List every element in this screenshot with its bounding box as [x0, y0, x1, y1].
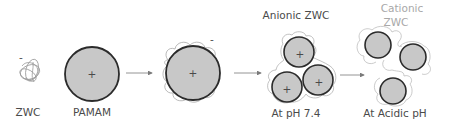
zwc-charge-minus: -: [19, 51, 23, 63]
cationic-label-line1: Cationic: [381, 2, 424, 14]
cationic-label-line2: ZWC: [384, 16, 409, 28]
anionic-ph-label: At pH 7.4: [271, 107, 320, 119]
anionic-left-charge: +: [283, 83, 292, 95]
coated-charge-minus: -: [210, 33, 214, 45]
zwc-label: ZWC: [16, 106, 41, 118]
cationic-ph-label: At Acidic pH: [363, 107, 426, 119]
diagram-canvas: - ZWC + PAMAM + - Anionic ZWC + + + At p…: [0, 0, 453, 128]
anionic-right-charge: +: [315, 76, 324, 88]
cationic-particle-left: [365, 32, 391, 58]
pamam-label: PAMAM: [73, 106, 111, 118]
cationic-particle-bottom: [380, 78, 406, 104]
coated-charge-plus: +: [189, 67, 198, 79]
anionic-zwc-label: Anionic ZWC: [263, 9, 330, 21]
anionic-top-charge: +: [296, 48, 305, 60]
pamam-charge-plus: +: [88, 68, 97, 80]
cationic-particle-right: [400, 44, 426, 70]
